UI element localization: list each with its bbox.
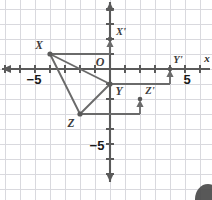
vertex-dot-Y-prime [168,67,173,72]
vertex-dot-X-prime [108,37,113,42]
vertex-dot-Z [77,111,82,116]
vertex-dot-Z-prime [138,97,143,102]
vertex-label-X: X [34,39,43,51]
origin-label: O [96,55,105,69]
vertex-dot-Y [107,81,112,86]
x-axis-name-label: x [203,52,210,64]
y-axis-tick-label-negative-5: −5 [90,138,105,153]
x-axis-tick-label-positive-5: 5 [183,72,190,87]
plot-background [0,0,212,200]
vertex-label-Z-prime: Z' [144,85,154,96]
coordinate-plane-figure: XYZX'Y'Z' O −5 5 −5 x [0,0,212,200]
x-axis-tick-label-negative-5: −5 [27,72,42,87]
vertex-label-Y: Y [115,85,123,97]
vertex-label-Y-prime: Y' [173,54,182,65]
vertex-label-X-prime: X' [115,26,126,37]
vertex-dot-X [47,51,52,56]
coordinate-plane-svg: XYZX'Y'Z' O −5 5 −5 x [0,0,212,200]
vertex-label-Z: Z [66,117,74,129]
